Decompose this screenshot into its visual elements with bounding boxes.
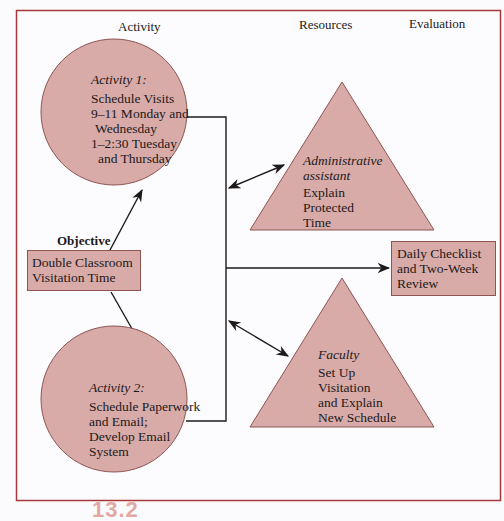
resource1-line: Protected: [303, 200, 354, 215]
resource1-line: Time: [303, 215, 331, 230]
activity2-line: Develop Email: [89, 429, 170, 444]
activity2-line: Schedule Paperwork: [89, 399, 200, 414]
objective-text: Double Classroom: [32, 255, 133, 270]
resource1-line: Explain: [303, 185, 345, 200]
evaluation-line: Review: [397, 276, 438, 291]
activity2-title: Activity 2:: [89, 380, 145, 395]
activity2-line: and Email;: [89, 414, 148, 429]
figure-number: 13.2: [92, 497, 139, 521]
activity1-line: and Thursday: [98, 151, 172, 166]
activity1-line: 9–11 Monday and: [91, 106, 189, 121]
header-resources: Resources: [299, 17, 352, 33]
resource1-title: Administrative: [303, 153, 383, 168]
resource2-line: and Explain: [318, 395, 383, 410]
resource2-line: New Schedule: [318, 410, 396, 425]
evaluation-line: Daily Checklist: [397, 246, 481, 261]
activity1-title: Activity 1:: [91, 72, 147, 87]
objective-label: Objective: [57, 233, 110, 248]
objective-text: Visitation Time: [32, 270, 116, 285]
activity1-line: Schedule Visits: [91, 91, 174, 106]
resource2-line: Set Up: [318, 365, 355, 380]
resource2-line: Visitation: [318, 380, 370, 395]
header-evaluation: Evaluation: [409, 16, 465, 32]
activity1-line: Wednesday: [95, 121, 157, 136]
resource2-title: Faculty: [318, 347, 359, 362]
activity1-line: 1–2:30 Tuesday: [91, 136, 177, 151]
evaluation-line: and Two-Week: [397, 261, 478, 276]
resource1-title: assistant: [303, 168, 350, 183]
header-activity: Activity: [118, 19, 161, 35]
activity2-line: System: [89, 444, 129, 459]
